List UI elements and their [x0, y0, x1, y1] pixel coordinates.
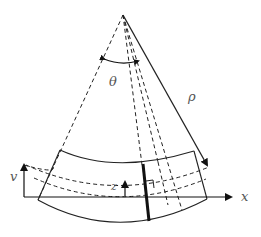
- theta-arc: [104, 59, 138, 63]
- radial-dashed-extensions: [158, 162, 168, 205]
- z-label: z: [110, 180, 117, 193]
- curved-beam-diagram: θ ρ x v z: [0, 0, 261, 237]
- v-axis-label: v: [10, 169, 18, 184]
- right-angle-mark: [146, 180, 154, 188]
- theta-label: θ: [109, 74, 117, 89]
- beam-segment: [38, 150, 207, 222]
- rho-label: ρ: [187, 89, 196, 104]
- radial-dashed-lines: [38, 15, 182, 210]
- cross-section-line: [143, 164, 149, 221]
- x-axis-label: x: [241, 189, 249, 204]
